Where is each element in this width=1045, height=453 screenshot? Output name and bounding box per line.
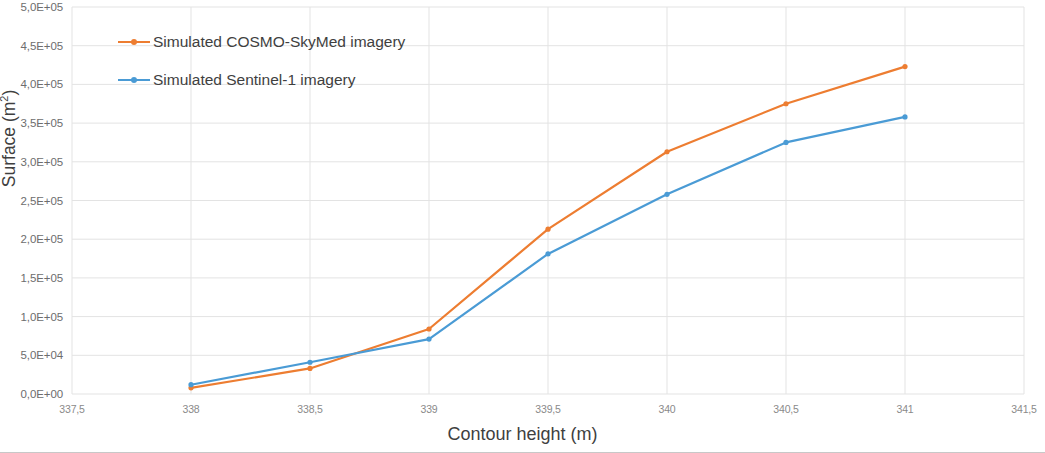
data-point-marker: [664, 192, 669, 197]
legend-swatch-icon: [118, 36, 150, 48]
y-axis-tick-labels: 0,0E+005,0E+041,0E+051,5E+052,0E+052,5E+…: [0, 0, 72, 401]
legend-item: Simulated COSMO-SkyMed imagery: [118, 27, 448, 57]
data-point-marker: [307, 366, 312, 371]
y-axis-tick-label: 1,0E+05: [21, 311, 63, 323]
x-axis-tick-labels: 337,5338338,5339339,5340340,5341341,5: [0, 399, 1045, 421]
data-point-marker: [307, 360, 312, 365]
data-point-marker: [783, 101, 788, 106]
series-line: [191, 117, 905, 385]
x-axis-title-text: Contour height (m): [447, 424, 597, 444]
legend-item-label: Simulated Sentinel-1 imagery: [153, 71, 355, 89]
y-axis-tick-label: 5,0E+05: [21, 1, 63, 13]
x-axis-tick-label: 341: [897, 403, 914, 415]
x-axis-tick-label: 339,5: [535, 403, 560, 415]
y-axis-tick-label: 3,0E+05: [21, 156, 63, 168]
data-point-marker: [188, 382, 193, 387]
y-axis-tick-label: 5,0E+04: [21, 349, 63, 361]
legend-marker-icon: [131, 77, 137, 83]
data-point-marker: [545, 251, 550, 256]
data-point-marker: [545, 227, 550, 232]
x-axis-tick-label: 340: [659, 403, 676, 415]
x-axis-tick-label: 338: [183, 403, 200, 415]
x-axis-tick-label: 340,5: [773, 403, 798, 415]
series-1: [188, 64, 907, 390]
y-axis-tick-label: 2,5E+05: [21, 195, 63, 207]
y-axis-tick-label: 4,0E+05: [21, 78, 63, 90]
legend-item: Simulated Sentinel-1 imagery: [118, 65, 448, 95]
y-axis-tick-label: 1,5E+05: [21, 272, 63, 284]
legend-swatch-icon: [118, 74, 150, 86]
data-point-marker: [783, 140, 788, 145]
data-point-marker: [426, 336, 431, 341]
y-axis-tick-label: 4,5E+05: [21, 40, 63, 52]
x-axis-title: Contour height (m): [0, 424, 1045, 445]
x-axis-tick-label: 341,5: [1011, 403, 1036, 415]
data-point-marker: [902, 114, 907, 119]
data-point-marker: [664, 149, 669, 154]
legend-item-label: Simulated COSMO-SkyMed imagery: [153, 33, 405, 51]
data-point-marker: [902, 64, 907, 69]
legend-marker-icon: [131, 39, 137, 45]
line-chart: Surface (m2) 0,0E+005,0E+041,0E+051,5E+0…: [0, 0, 1045, 453]
x-axis-tick-label: 338,5: [297, 403, 322, 415]
chart-legend: Simulated COSMO-SkyMed imagerySimulated …: [118, 27, 448, 103]
y-axis-tick-label: 2,0E+05: [21, 233, 63, 245]
series-2: [188, 114, 907, 387]
y-axis-tick-label: 3,5E+05: [21, 117, 63, 129]
x-axis-tick-label: 337,5: [59, 403, 84, 415]
x-axis-tick-label: 339: [421, 403, 438, 415]
data-point-marker: [426, 326, 431, 331]
